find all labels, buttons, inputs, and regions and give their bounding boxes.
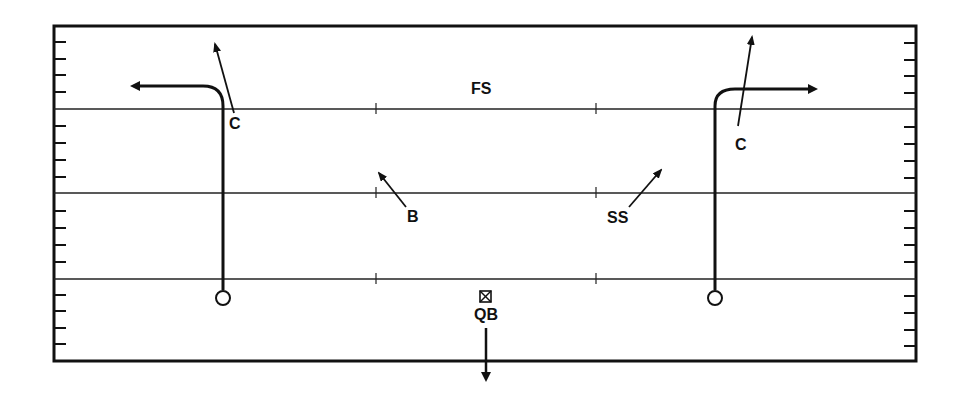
yard-lines xyxy=(54,109,916,279)
quarterback-icon xyxy=(480,291,491,302)
left-receiver-route xyxy=(138,86,223,290)
play-diagram xyxy=(0,0,960,399)
left-corner-drop-arrow xyxy=(215,44,234,113)
linebacker-drop-arrow xyxy=(379,173,406,207)
free-safety-label: FS xyxy=(471,81,491,97)
strong-safety-drop-arrow xyxy=(629,170,661,207)
right-corner-label: C xyxy=(735,137,747,153)
right-receiver-route xyxy=(715,89,810,290)
right-corner-drop-arrow xyxy=(738,37,752,126)
left-receiver-icon xyxy=(216,291,230,305)
right-receiver-icon xyxy=(708,291,722,305)
quarterback-label: QB xyxy=(474,307,498,323)
linebacker-label: B xyxy=(407,209,419,225)
right-yard-ticks xyxy=(904,43,916,346)
strong-safety-label: SS xyxy=(607,210,628,226)
left-corner-label: C xyxy=(229,116,241,132)
